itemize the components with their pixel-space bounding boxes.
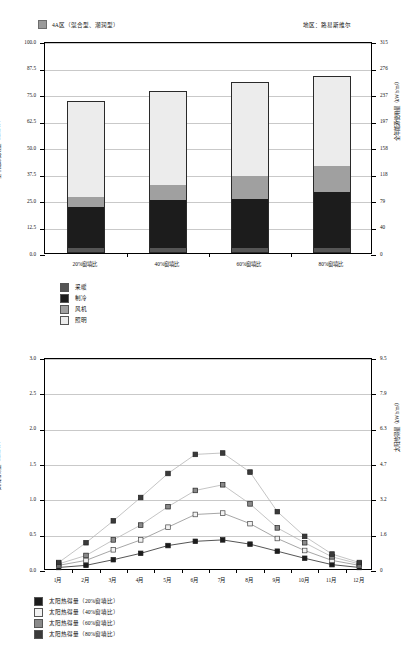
legend-swatch-采暖 [60, 283, 69, 292]
data-point-太阳热得量（80%窗墙比）-5月 [166, 471, 171, 476]
line-right-tick-label: 1.6 [380, 531, 410, 537]
bar-right-tick [371, 123, 376, 124]
bar-left-tick-label: 12.5 [0, 224, 36, 230]
list-item: 照明 [60, 315, 220, 326]
data-point-太阳热得量（20%窗墙比）-7月 [220, 538, 225, 543]
series-line-太阳热得量（60%窗墙比） [59, 485, 360, 564]
bar-right-tick [371, 96, 376, 97]
bar-x-tick [209, 253, 210, 257]
list-item: 制冷 [60, 293, 220, 304]
bar-segment-采暖 [67, 248, 105, 253]
bar-left-tick [40, 149, 45, 150]
bar-segment-制冷 [67, 207, 105, 247]
bar-category-label: 20%窗墙比 [45, 260, 125, 268]
data-point-太阳热得量（80%窗墙比）-1月 [56, 560, 61, 565]
bar-right-tick [371, 229, 376, 230]
bar-category-label: 60%窗墙比 [209, 260, 289, 268]
data-point-太阳热得量（80%窗墙比）-10月 [302, 534, 307, 539]
bar-right-tick [371, 149, 376, 150]
data-point-太阳热得量（40%窗墙比）-9月 [275, 536, 280, 541]
line-left-tick-label: 0.5 [0, 531, 36, 537]
data-point-太阳热得量（20%窗墙比）-9月 [275, 549, 280, 554]
line-left-tick-label: 3.0 [0, 355, 36, 361]
data-point-太阳热得量（40%窗墙比）-2月 [84, 558, 89, 563]
bar-right-tick-label: 158 [380, 145, 410, 151]
line-right-tick-label: 7.9 [380, 390, 410, 396]
bar-2 [149, 41, 187, 253]
data-point-太阳热得量（20%窗墙比）-10月 [302, 556, 307, 561]
bar-left-tick-label: 0.0 [0, 251, 36, 257]
data-point-太阳热得量（40%窗墙比）-10月 [302, 548, 307, 553]
bar-segment-制冷 [313, 192, 351, 248]
line-right-tick-label: 9.5 [380, 355, 410, 361]
line-left-tick-label: 2.5 [0, 390, 36, 396]
bar-x-tick [291, 253, 292, 257]
bar-segment-风机 [231, 176, 269, 199]
line-right-tick-label: 4.7 [380, 461, 410, 467]
bar-left-tick-label: 37.5 [0, 171, 36, 177]
data-point-太阳热得量（40%窗墙比）-4月 [138, 538, 143, 543]
legend-swatch-风机 [60, 305, 69, 314]
legend-label: 照明 [75, 316, 87, 325]
list-item: 太阳热得量（20%窗墙比） [34, 596, 254, 607]
bar-right-tick-label: 276 [380, 65, 410, 71]
data-point-太阳热得量（80%窗墙比）-3月 [111, 519, 116, 524]
legend-swatch-照明 [60, 316, 69, 325]
bar-plot-area [44, 42, 372, 254]
line-series-layer [45, 359, 373, 571]
bar-segment-风机 [313, 166, 351, 191]
legend-swatch-太阳热得量（20%窗墙比） [34, 597, 43, 606]
bar-left-tick [40, 202, 45, 203]
bar-segment-采暖 [231, 248, 269, 253]
bar-4 [313, 41, 351, 253]
data-point-太阳热得量（60%窗墙比）-7月 [220, 482, 225, 487]
data-point-太阳热得量（60%窗墙比）-10月 [302, 540, 307, 545]
data-point-太阳热得量（20%窗墙比）-8月 [248, 542, 253, 547]
data-point-太阳热得量（20%窗墙比）-4月 [138, 551, 143, 556]
legend-label: 制冷 [75, 294, 87, 303]
bar-left-tick-label: 100.0 [0, 39, 36, 45]
bar-left-tick-label: 62.5 [0, 118, 36, 124]
bar-category-label: 80%窗墙比 [291, 260, 371, 268]
bar-segment-采暖 [313, 248, 351, 253]
bar-left-tick [40, 176, 45, 177]
bar-left-tick [40, 43, 45, 44]
bar-3 [231, 41, 269, 253]
data-point-太阳热得量（80%窗墙比）-6月 [193, 452, 198, 457]
series-line-太阳热得量（40%窗墙比） [59, 513, 360, 565]
data-point-太阳热得量（40%窗墙比）-6月 [193, 512, 198, 517]
line-left-tick-label: 2.0 [0, 425, 36, 431]
data-point-太阳热得量（60%窗墙比）-8月 [248, 502, 253, 507]
data-point-太阳热得量（80%窗墙比）-4月 [138, 495, 143, 500]
bar-right-tick-label: 237 [380, 92, 410, 98]
data-point-太阳热得量（20%窗墙比）-5月 [166, 543, 171, 548]
bar-right-tick-label: 0 [380, 251, 410, 257]
data-point-太阳热得量（60%窗墙比）-2月 [84, 553, 89, 558]
bar-segment-照明 [231, 82, 269, 175]
line-right-tick-label: 3.2 [380, 496, 410, 502]
data-point-太阳热得量（60%窗墙比）-9月 [275, 526, 280, 531]
line-left-tick-label: 1.0 [0, 496, 36, 502]
bar-left-tick-label: 25.0 [0, 198, 36, 204]
bar-right-tick [371, 255, 376, 256]
bar-segment-照明 [313, 76, 351, 166]
data-point-太阳热得量（80%窗墙比）-11月 [330, 552, 335, 557]
list-item: 太阳热得量（40%窗墙比） [34, 607, 254, 618]
bar-right-tick [371, 202, 376, 203]
bar-left-tick-label: 75.0 [0, 92, 36, 98]
legend-swatch-太阳热得量（40%窗墙比） [34, 608, 43, 617]
data-point-太阳热得量（60%窗墙比）-5月 [166, 504, 171, 509]
bar-left-tick [40, 96, 45, 97]
data-point-太阳热得量（80%窗墙比）-7月 [220, 451, 225, 456]
data-point-太阳热得量（80%窗墙比）-9月 [275, 509, 280, 514]
legend-label: 风机 [75, 305, 87, 314]
line-month-label: 12月 [338, 576, 378, 584]
bar-right-tick [371, 43, 376, 44]
legend-label: 太阳热得量（80%窗墙比） [49, 630, 119, 639]
bar-segment-制冷 [231, 199, 269, 248]
data-point-太阳热得量（80%窗墙比）-12月 [357, 560, 362, 565]
bar-right-tick-label: 40 [380, 224, 410, 230]
bar-right-tick [371, 176, 376, 177]
bar-segment-风机 [149, 185, 187, 200]
series-line-太阳热得量（80%窗墙比） [59, 453, 360, 563]
